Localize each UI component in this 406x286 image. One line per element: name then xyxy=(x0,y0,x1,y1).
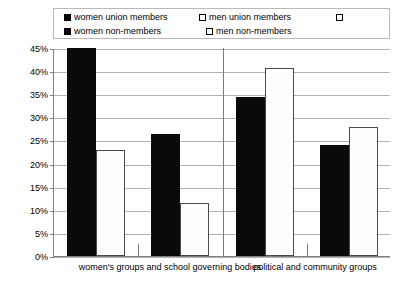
legend-row-1: women union membersmen union members xyxy=(54,10,389,24)
legend-entry-1-1: men non-members xyxy=(206,24,292,38)
bar-0-0 xyxy=(67,48,96,256)
y-axis-tick-label: 5% xyxy=(35,230,48,239)
legend-swatch-filled-icon xyxy=(64,14,71,21)
group-separator xyxy=(223,48,224,256)
bar-2-0 xyxy=(236,97,265,256)
y-axis-tick xyxy=(50,211,54,212)
group-separator xyxy=(138,244,139,256)
bar-3-1 xyxy=(349,127,378,256)
y-axis-tick-label: 30% xyxy=(30,114,48,123)
y-axis-tick-label: 0% xyxy=(35,253,48,262)
legend-swatch-hollow-icon xyxy=(199,14,206,21)
y-axis-tick-label: 20% xyxy=(30,161,48,170)
bar-1-1 xyxy=(180,203,209,256)
legend-label: women union members xyxy=(74,13,168,22)
bar-0-1 xyxy=(96,150,125,256)
y-axis-tick xyxy=(50,188,54,189)
legend-entry-1-0: women non-members xyxy=(64,24,161,38)
legend-swatch-hollow-icon xyxy=(206,28,213,35)
legend-row-2: women non-membersmen non-members xyxy=(54,24,389,38)
legend-swatch-filled-icon xyxy=(64,28,71,35)
y-axis-tick-label: 25% xyxy=(30,137,48,146)
legend-entry-0-1: men union members xyxy=(199,10,291,24)
x-axis-label-1: political and community groups xyxy=(215,262,406,272)
gridline xyxy=(54,257,390,258)
y-axis-tick-label: 10% xyxy=(30,207,48,216)
group-separator xyxy=(307,244,308,256)
y-axis-tick xyxy=(50,49,54,50)
y-axis-tick xyxy=(50,234,54,235)
bar-2-1 xyxy=(265,68,294,256)
y-axis-tick-label: 40% xyxy=(30,68,48,77)
y-axis-tick xyxy=(50,72,54,73)
y-axis-tick xyxy=(50,141,54,142)
legend-label: women non-members xyxy=(74,27,161,36)
bar-1-0 xyxy=(151,134,180,256)
y-axis-tick-label: 45% xyxy=(30,45,48,54)
y-axis-tick xyxy=(50,257,54,258)
legend-label: men non-members xyxy=(216,27,292,36)
chart-legend: women union membersmen union members wom… xyxy=(53,8,390,39)
legend-entry-0-0: women union members xyxy=(64,10,168,24)
y-axis-tick-label: 15% xyxy=(30,184,48,193)
plot-area: 45%40%35%30%25%20%15%10%5%0% xyxy=(53,49,390,257)
legend-entry-0-2 xyxy=(336,10,346,24)
bar-3-0 xyxy=(320,145,349,256)
y-axis-tick xyxy=(50,118,54,119)
y-axis-tick xyxy=(50,95,54,96)
y-axis-tick xyxy=(50,165,54,166)
legend-swatch-hollow-icon xyxy=(336,14,343,21)
legend-label: men union members xyxy=(209,13,291,22)
y-axis-tick-label: 35% xyxy=(30,91,48,100)
